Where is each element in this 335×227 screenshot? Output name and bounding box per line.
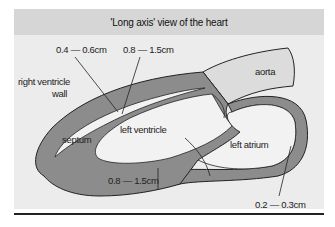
label-rv-wall-2: wall — [51, 88, 67, 99]
heart-diagram: 0.4 — 0.6cm 0.8 — 1.5cm right ventricle … — [0, 0, 335, 227]
label-lv-upper-thickness: 0.8 — 1.5cm — [123, 44, 174, 55]
label-aorta: aorta — [255, 66, 276, 77]
label-septum: septum — [62, 134, 92, 145]
label-left-atrium: left atrium — [230, 139, 269, 150]
label-rv-wall-thickness: 0.4 — 0.6cm — [56, 44, 107, 55]
label-la-wall-thickness: 0.2 — 0.3cm — [255, 199, 306, 210]
label-lv-lower-thickness: 0.8 — 1.5cm — [108, 175, 159, 186]
label-rv-wall-1: right ventricle — [18, 76, 70, 87]
label-left-ventricle: left ventricle — [120, 124, 167, 135]
